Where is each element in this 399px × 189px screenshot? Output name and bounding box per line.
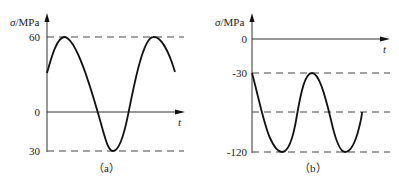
y-axis-arrow-icon	[45, 13, 50, 22]
caption-a: （a）	[93, 162, 120, 174]
tick-60: 60	[29, 31, 41, 43]
caption-b: （b）	[299, 162, 327, 174]
x-axis-arrow-icon	[175, 110, 185, 115]
y-axis-label-a: σ/MPa	[10, 16, 39, 28]
tick-minus-120: -120	[227, 146, 248, 158]
tick-0-a: 0	[35, 106, 41, 118]
stress-curve-a	[47, 37, 175, 151]
tick-30: 30	[29, 145, 41, 157]
y-axis-arrow-icon	[250, 13, 255, 22]
y-axis-label-b: σ/MPa	[215, 16, 244, 28]
x-axis-label-a: t	[178, 116, 182, 128]
chart-b: σ/MPa t 0 -30 -120 （b）	[215, 13, 390, 174]
chart-a: σ/MPa t 60 0 30 （a）	[10, 13, 185, 174]
figure: σ/MPa t 60 0 30 （a） σ/MPa t 0 -30 -	[0, 0, 399, 189]
x-axis-arrow-icon	[380, 37, 390, 42]
tick-0-b: 0	[242, 33, 248, 45]
tick-minus-30: -30	[232, 67, 247, 79]
x-axis-label-b: t	[383, 43, 387, 55]
